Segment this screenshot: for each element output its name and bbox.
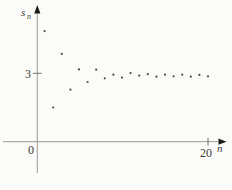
data-point <box>69 89 71 91</box>
data-point <box>173 75 175 77</box>
data-point <box>112 74 114 76</box>
data-point <box>207 75 209 77</box>
data-point <box>164 74 166 76</box>
data-point <box>198 74 200 76</box>
origin-label: 0 <box>28 143 34 157</box>
data-point <box>147 73 149 75</box>
data-point <box>181 74 183 76</box>
y-axis-label: s <box>21 6 25 18</box>
y-tick-label: 3 <box>25 67 31 81</box>
sequence-points <box>44 30 210 109</box>
data-point <box>190 76 192 78</box>
data-point <box>61 53 63 55</box>
sequence-convergence-figure: s n 3 0 20 n <box>0 0 232 190</box>
data-point <box>104 77 106 79</box>
data-point <box>121 77 123 79</box>
x-axis-label: n <box>217 142 223 154</box>
sequence-plot-svg: s n 3 0 20 n <box>0 0 232 190</box>
data-point <box>155 76 157 78</box>
data-point <box>87 81 89 83</box>
data-point <box>95 69 97 71</box>
data-point <box>44 30 46 32</box>
y-axis-label-subscript: n <box>27 12 31 21</box>
data-point <box>52 106 54 108</box>
data-point <box>130 72 132 74</box>
y-axis-arrow-icon <box>34 5 40 14</box>
x-tick-label: 20 <box>200 146 212 160</box>
data-point <box>138 75 140 77</box>
data-point <box>78 68 80 70</box>
